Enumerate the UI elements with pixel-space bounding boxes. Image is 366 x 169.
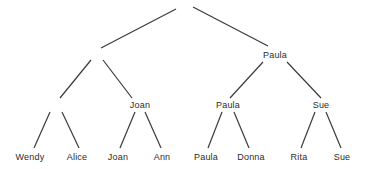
leaf-alice: Alice <box>67 153 88 162</box>
edge-joan-ann <box>145 112 161 148</box>
edge-l1right-left <box>230 62 263 98</box>
node-paula-level1: Paula <box>263 51 287 60</box>
edge-joan-joan <box>120 112 135 148</box>
leaf-paula: Paula <box>194 153 218 162</box>
edge-alice <box>62 112 79 148</box>
edge-root-left <box>101 9 176 48</box>
edge-wendy <box>34 112 50 148</box>
leaf-ann: Ann <box>154 153 171 162</box>
edge-l1left-right <box>103 60 132 98</box>
edge-l1right-right <box>287 62 321 98</box>
edge-root-right <box>193 7 268 46</box>
leaf-wendy: Wendy <box>16 153 45 162</box>
node-joan-level2: Joan <box>130 101 150 110</box>
leaf-rita: Rita <box>291 153 308 162</box>
node-paula-level2: Paula <box>216 101 240 110</box>
leaf-sue: Sue <box>334 153 351 162</box>
node-sue-level2: Sue <box>313 101 330 110</box>
leaf-donna: Donna <box>237 153 265 162</box>
edge-sue-sue <box>326 112 341 148</box>
edge-sue-rita <box>301 112 315 148</box>
leaf-joan: Joan <box>108 153 128 162</box>
edge-l1left-left <box>60 60 91 98</box>
tree-edges <box>0 0 366 169</box>
edge-paula-donna <box>234 112 249 148</box>
edge-paula-paula <box>208 112 222 148</box>
